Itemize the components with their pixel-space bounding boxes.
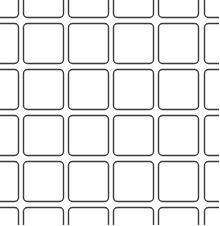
grid-cell [0,208,19,226]
grid-cell [24,208,64,226]
grid-cell [205,116,220,156]
grid-cell [114,24,154,64]
grid-cell [0,162,19,202]
grid-cell [24,24,64,64]
grid-cell [24,116,64,156]
grid-cell [114,116,154,156]
grid-cell [159,116,199,156]
grid-cell [205,70,220,110]
grid-cell [114,70,154,110]
grid-cell [159,70,199,110]
grid-cell [69,24,109,64]
grid-cell [114,208,154,226]
grid-cell [159,0,199,18]
grid-cell [69,162,109,202]
grid-cell [24,70,64,110]
grid-cell [24,0,64,18]
grid-cell [69,208,109,226]
grid-cell [159,208,199,226]
grid-cell [0,116,19,156]
grid-cell [205,162,220,202]
grid-cell [69,70,109,110]
grid-cell [114,162,154,202]
rounded-square-grid [0,0,219,225]
grid-cell [24,162,64,202]
grid-cell [69,116,109,156]
grid-cell [159,162,199,202]
grid-cell [0,70,19,110]
grid-cell [159,24,199,64]
grid-cell [0,24,19,64]
grid-cell [205,24,220,64]
grid-cell [0,0,19,18]
grid-cell [205,208,220,226]
grid-cell [69,0,109,18]
grid-cell [205,0,220,18]
grid-cell [114,0,154,18]
